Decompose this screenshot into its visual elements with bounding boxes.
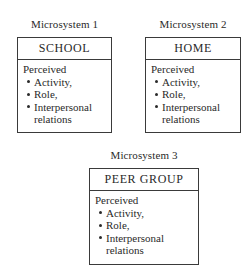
list-item-role: Role, [23,88,111,101]
microsystem-box: HOME Perceived Activity, Role, Interpers… [145,37,241,133]
perceived-heading: Perceived [151,63,240,76]
bullet-icon [99,236,102,239]
microsystem-1: Microsystem 1 SCHOOL Perceived Activity,… [17,18,112,134]
list-item-interpersonal-relations: Interpersonalrelations [95,232,198,257]
perceived-section: Perceived Activity, Role, Interpersonalr… [18,60,111,126]
microsystem-caption: Microsystem 3 [89,149,199,161]
bullet-icon [155,105,158,108]
perceived-heading: Perceived [95,194,198,207]
microsystem-2: Microsystem 2 HOME Perceived Activity, R… [145,18,241,134]
list-item-role: Role, [151,88,240,101]
perceived-section: Perceived Activity, Role, Interpersonalr… [146,60,240,126]
list-item-activity: Activity, [95,207,198,220]
microsystem-box: PEER GROUP Perceived Activity, Role, Int… [89,168,199,265]
bullet-icon [155,80,158,83]
perceived-heading: Perceived [23,63,111,76]
bullet-icon [27,93,30,96]
microsystem-3: Microsystem 3 PEER GROUP Perceived Activ… [89,149,199,266]
microsystem-caption: Microsystem 2 [145,18,241,30]
perceived-list: Activity, Role, Interpersonalrelations [23,76,111,126]
list-item-role: Role, [95,219,198,232]
list-item-interpersonal-relations: Interpersonalrelations [23,101,111,126]
microsystem-caption: Microsystem 1 [17,18,112,30]
setting-title: SCHOOL [18,38,111,60]
setting-title: HOME [146,38,240,60]
microsystem-box: SCHOOL Perceived Activity, Role, Interpe… [17,37,112,133]
list-item-activity: Activity, [23,76,111,89]
bullet-icon [27,80,30,83]
perceived-list: Activity, Role, Interpersonalrelations [151,76,240,126]
perceived-section: Perceived Activity, Role, Interpersonalr… [90,191,198,257]
bullet-icon [99,211,102,214]
perceived-list: Activity, Role, Interpersonalrelations [95,207,198,257]
list-item-interpersonal-relations: Interpersonalrelations [151,101,240,126]
bullet-icon [99,224,102,227]
bullet-icon [155,93,158,96]
bullet-icon [27,105,30,108]
setting-title: PEER GROUP [90,169,198,191]
list-item-activity: Activity, [151,76,240,89]
